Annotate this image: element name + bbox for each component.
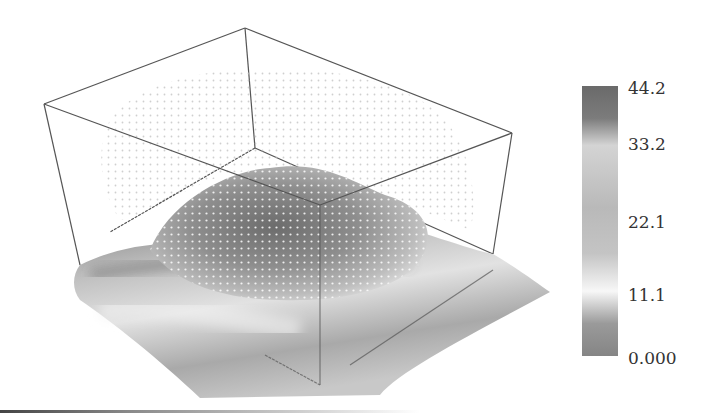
colorbar-tick-max: 44.2: [628, 80, 666, 97]
colorbar-tick-min: 0.000: [628, 350, 677, 367]
bottom-rule: [0, 410, 420, 413]
colorbar: [582, 86, 618, 356]
colorbar-tick-3: 22.1: [628, 214, 666, 231]
colorbar-tick-4: 11.1: [628, 287, 666, 304]
surface-plot: [0, 0, 713, 416]
colorbar-tick-2: 33.2: [628, 136, 666, 153]
